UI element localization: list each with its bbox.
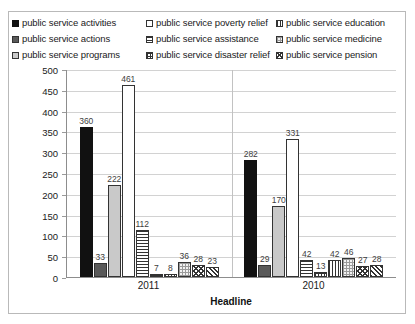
bar[interactable]: 28 (192, 265, 205, 277)
chart-figure: public service activitiespublic service … (0, 0, 415, 324)
bar-value-label: 46 (344, 247, 353, 257)
x-axis-title: Headline (66, 296, 396, 307)
bar[interactable]: 331 (286, 139, 299, 277)
bar[interactable]: 170 (272, 206, 285, 277)
y-axis-tick-mark (62, 278, 66, 279)
legend-item[interactable]: public service assistance (146, 31, 276, 47)
legend-swatch-icon (12, 20, 19, 27)
legend-item-label: public service assistance (156, 33, 259, 45)
y-axis-tick-label: 100 (42, 231, 58, 242)
bar-value-label: 28 (372, 254, 381, 264)
legend-item-label: public service education (286, 17, 385, 29)
y-axis: 500450400350300250200150100500 (8, 70, 62, 278)
x-axis-category-label: 2011 (66, 280, 231, 291)
legend-item[interactable]: public service poverty relief (146, 15, 276, 31)
bar-value-label: 29 (260, 254, 269, 264)
y-axis-tick-label: 50 (47, 252, 58, 263)
bar[interactable]: 42 (300, 260, 313, 277)
bar-value-label: 461 (121, 74, 135, 84)
bar[interactable]: 7 (150, 274, 163, 277)
legend-item-label: public service pension (286, 49, 377, 61)
legend-item-label: public service programs (22, 49, 120, 61)
legend-swatch-icon (276, 20, 283, 27)
bar[interactable]: 33 (94, 263, 107, 277)
bar[interactable]: 42 (328, 260, 341, 277)
bar-value-label: 36 (180, 251, 189, 261)
chart-legend: public service activitiespublic service … (12, 14, 402, 64)
legend-item[interactable]: public service programs (12, 47, 146, 63)
group-divider (232, 70, 233, 277)
bar-group: 3603322246111278362823 (67, 70, 232, 277)
legend-item[interactable]: public service medicine (276, 31, 402, 47)
legend-swatch-icon (146, 52, 153, 59)
legend-item[interactable]: public service pension (276, 47, 402, 63)
legend-swatch-icon (146, 20, 153, 27)
y-axis-tick-label: 450 (42, 85, 58, 96)
legend-swatch-icon (12, 52, 19, 59)
x-axis-category-label: 2010 (231, 280, 396, 291)
bar[interactable]: 36 (178, 262, 191, 277)
bar[interactable]: 27 (356, 266, 369, 277)
bar[interactable]: 222 (108, 185, 121, 277)
bar[interactable]: 360 (80, 127, 93, 277)
legend-item-label: public service disaster relief (156, 49, 270, 61)
bar-value-label: 8 (168, 263, 173, 273)
bar-value-label: 13 (316, 261, 325, 271)
legend-swatch-icon (276, 36, 283, 43)
x-axis-category-labels: 20112010 (66, 280, 396, 291)
legend-swatch-icon (276, 52, 283, 59)
bar-value-label: 42 (302, 249, 311, 259)
y-axis-tick-label: 300 (42, 148, 58, 159)
legend-item-label: public service medicine (286, 33, 382, 45)
legend-item-label: public service actions (22, 33, 110, 45)
plot-wrapper: 500450400350300250200150100500 360332224… (8, 66, 406, 314)
bar[interactable]: 112 (136, 230, 149, 277)
bar[interactable]: 29 (258, 265, 271, 277)
bar-value-label: 222 (107, 174, 121, 184)
bar[interactable]: 282 (244, 160, 257, 277)
bar[interactable]: 46 (342, 258, 355, 277)
bar-value-label: 282 (244, 149, 258, 159)
legend-item[interactable]: public service actions (12, 31, 146, 47)
legend-item[interactable]: public service activities (12, 15, 146, 31)
y-axis-tick-label: 0 (53, 273, 58, 284)
legend-item[interactable]: public service education (276, 15, 402, 31)
legend-swatch-icon (12, 36, 19, 43)
y-axis-tick-label: 200 (42, 189, 58, 200)
y-axis-tick-label: 250 (42, 169, 58, 180)
bar-value-label: 28 (194, 254, 203, 264)
bar[interactable]: 13 (314, 272, 327, 277)
bar-groups: 3603322246111278362823282291703314213424… (67, 70, 396, 277)
legend-swatch-icon (146, 36, 153, 43)
bar[interactable]: 28 (370, 265, 383, 277)
bar[interactable]: 23 (206, 267, 219, 277)
bar-value-label: 112 (135, 219, 149, 229)
bar-value-label: 27 (358, 255, 367, 265)
legend-item[interactable]: public service disaster relief (146, 47, 276, 63)
bar-value-label: 7 (154, 263, 159, 273)
bar-value-label: 360 (79, 116, 93, 126)
bar-value-label: 42 (330, 249, 339, 259)
bar-group: 28229170331421342462728 (232, 70, 397, 277)
bar-value-label: 170 (272, 195, 286, 205)
plot-area: 3603322246111278362823282291703314213424… (66, 70, 396, 278)
bar[interactable]: 8 (164, 274, 177, 277)
y-axis-tick-label: 150 (42, 210, 58, 221)
y-axis-tick-label: 350 (42, 127, 58, 138)
legend-item-label: public service poverty relief (156, 17, 268, 29)
y-axis-tick-label: 400 (42, 106, 58, 117)
legend-item-label: public service activities (22, 17, 116, 29)
bar-value-label: 331 (286, 128, 300, 138)
bar-value-label: 33 (96, 252, 105, 262)
bar[interactable]: 461 (122, 85, 135, 277)
y-axis-tick-label: 500 (42, 65, 58, 76)
bar-value-label: 23 (208, 256, 217, 266)
